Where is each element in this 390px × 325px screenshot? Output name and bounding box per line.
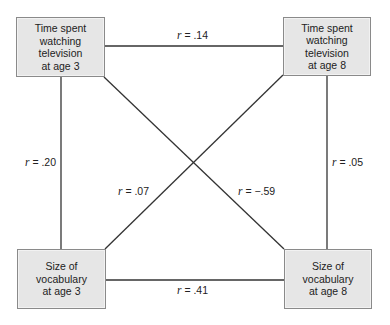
node-tv-age3: Time spent watching television at age 3	[16, 17, 105, 77]
node-label: Size of vocabulary at age 8	[303, 260, 354, 298]
edge-label-tv3-tv8: r = .14	[177, 29, 208, 41]
r-value: = .20	[32, 156, 56, 168]
r-value: = .14	[184, 29, 208, 41]
r-symbol: r	[177, 284, 181, 296]
r-symbol: r	[25, 156, 29, 168]
node-label: Time spent watching television at age 8	[301, 22, 353, 72]
node-label: Size of vocabulary at age 3	[36, 260, 87, 298]
node-vocab-age3: Size of vocabulary at age 3	[17, 249, 106, 309]
edge-label-tv3-vocab3: r = .20	[25, 156, 56, 168]
r-symbol: r	[238, 185, 242, 197]
r-value: = .05	[339, 156, 363, 168]
r-value: = .41	[184, 284, 208, 296]
r-value: = −.59	[245, 185, 275, 197]
node-vocab-age8: Size of vocabulary at age 8	[284, 249, 372, 309]
r-symbol: r	[332, 156, 336, 168]
r-value: = .07	[125, 185, 149, 197]
edge-label-vocab3-tv8: r = .07	[118, 185, 149, 197]
edge-label-vocab3-vocab8: r = .41	[177, 284, 208, 296]
r-symbol: r	[177, 29, 181, 41]
node-label: Time spent watching television at age 3	[35, 22, 87, 72]
edge-label-tv8-vocab8: r = .05	[332, 156, 363, 168]
edge-label-tv3-vocab8: r = −.59	[238, 185, 275, 197]
r-symbol: r	[118, 185, 122, 197]
node-tv-age8: Time spent watching television at age 8	[283, 17, 371, 76]
